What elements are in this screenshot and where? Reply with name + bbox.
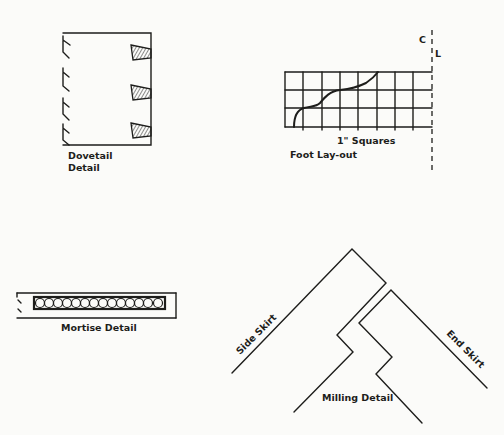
centerline-label-c: C xyxy=(419,34,426,45)
foot-profile-curve xyxy=(294,72,378,127)
mortise-drill-holes xyxy=(36,299,163,308)
mortise-detail: Mortise Detail xyxy=(17,293,176,333)
milling-label: Milling Detail xyxy=(322,392,393,403)
break-marks xyxy=(63,36,70,145)
mortise-label: Mortise Detail xyxy=(61,322,137,333)
dovetail-label-line2: Detail xyxy=(68,162,100,173)
dovetail-detail: Dovetail Detail xyxy=(63,33,151,173)
centerline-label-l: L xyxy=(435,48,441,59)
furniture-drawing-sheet: Dovetail Detail C L 1" Squares Foot Lay-… xyxy=(0,0,504,435)
milling-detail: Side Skirt End Skirt Milling Detail xyxy=(232,249,487,423)
dovetail-pins xyxy=(131,45,151,138)
side-skirt-label: Side Skirt xyxy=(234,311,279,356)
dovetail-label-line1: Dovetail xyxy=(68,150,113,161)
grid xyxy=(285,72,432,130)
foot-layout-label: Foot Lay-out xyxy=(290,149,358,160)
grid-scale-label: 1" Squares xyxy=(337,135,396,146)
end-skirt-label: End Skirt xyxy=(445,328,488,371)
foot-layout: C L 1" Squares Foot Lay-out xyxy=(285,30,441,172)
